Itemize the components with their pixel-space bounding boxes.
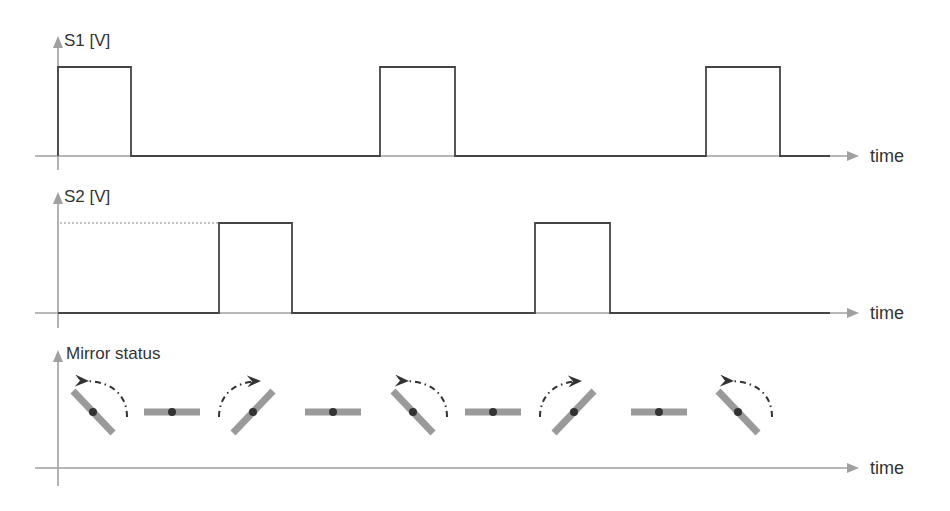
mirror-state-tilted-left — [73, 381, 127, 433]
s1-signal — [58, 67, 830, 156]
mirror-state-flat — [305, 408, 361, 416]
mirror-state-tilted-left — [393, 381, 447, 433]
mirror-state-flat — [465, 408, 521, 416]
mirror-state-tilted-right — [540, 381, 594, 433]
s2-panel: S2 [V] time — [35, 187, 904, 328]
mirror-axis-label: Mirror status — [66, 344, 160, 363]
mirror-state-flat — [144, 408, 200, 416]
mirror-panel: Mirror status time — [35, 344, 904, 486]
mirror-time-label: time — [870, 458, 904, 478]
mirror-state-flat — [631, 408, 687, 416]
s1-panel: S1 [V] time — [35, 31, 904, 170]
s2-time-label: time — [870, 303, 904, 323]
s2-signal — [58, 223, 830, 313]
s2-axis-label: S2 [V] — [64, 187, 110, 206]
mirror-state-tilted-left — [718, 381, 772, 433]
mirror-state-tilted-right — [219, 381, 273, 433]
s1-time-label: time — [870, 146, 904, 166]
timing-diagram: S1 [V] time S2 [V] time Mirror status ti… — [0, 0, 950, 511]
s1-axis-label: S1 [V] — [64, 31, 110, 50]
